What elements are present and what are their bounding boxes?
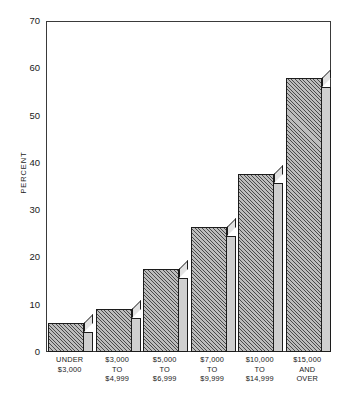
x-axis-label-line: TO	[236, 365, 284, 375]
x-axis-label-line: AND	[284, 365, 332, 375]
x-axis-tick-label: UNDER$3,000	[46, 355, 94, 374]
x-axis-label-line: $10,000	[236, 355, 284, 365]
y-axis-title: PERCENT	[19, 128, 28, 218]
x-axis-label-line: $3,000	[94, 355, 142, 365]
bar-front-face	[191, 227, 227, 352]
bar-top-face	[132, 300, 141, 318]
y-axis-tick-label: 40	[18, 158, 40, 168]
x-axis-tick-label: $15,000ANDOVER	[284, 355, 332, 384]
x-axis-label-line: $3,000	[46, 365, 94, 375]
x-axis-label-line: $7,000	[189, 355, 237, 365]
y-axis-tick-label: 70	[18, 16, 40, 26]
x-axis-label-line: TO	[94, 365, 142, 375]
bar	[143, 269, 179, 352]
bars-layer	[46, 21, 331, 352]
bar	[286, 78, 322, 352]
bar	[238, 174, 274, 352]
y-axis-tick-label: 0	[18, 347, 40, 357]
bar-front-face	[48, 323, 84, 352]
x-axis-tick-labels: UNDER$3,000$3,000TO$4,999$5,000TO$6,999$…	[46, 355, 331, 397]
bar-side-face	[132, 318, 141, 352]
bar-side-face	[179, 278, 188, 352]
y-axis-tick-label: 50	[18, 111, 40, 121]
y-axis-tick-label: 30	[18, 205, 40, 215]
bar-top-face	[274, 165, 283, 183]
bar-front-face	[286, 78, 322, 352]
bar-side-face	[84, 332, 93, 352]
x-axis-label-line: OVER	[284, 374, 332, 384]
bar-side-face	[227, 236, 236, 352]
x-axis-label-line: TO	[189, 365, 237, 375]
y-axis-tick-label: 20	[18, 252, 40, 262]
x-axis-tick-label: $5,000TO$6,999	[141, 355, 189, 384]
x-axis-label-line: $9,999	[189, 374, 237, 384]
x-axis-label-line: UNDER	[46, 355, 94, 365]
bar-side-face	[322, 87, 331, 352]
x-axis-label-line: $5,000	[141, 355, 189, 365]
bar	[96, 309, 132, 352]
bar	[191, 227, 227, 352]
x-axis-tick-label: $3,000TO$4,999	[94, 355, 142, 384]
x-axis-label-line: $6,999	[141, 374, 189, 384]
bar-top-face	[227, 218, 236, 236]
bar	[48, 323, 84, 352]
x-axis-tick-label: $7,000TO$9,999	[189, 355, 237, 384]
bar-front-face	[143, 269, 179, 352]
x-axis-label-line: $4,999	[94, 374, 142, 384]
bar-front-face	[96, 309, 132, 352]
x-axis-label-line: $14,999	[236, 374, 284, 384]
x-axis-label-line: TO	[141, 365, 189, 375]
bar-side-face	[274, 183, 283, 352]
bar-top-face	[84, 314, 93, 332]
y-axis-tick-label: 60	[18, 63, 40, 73]
y-axis-tick-label: 10	[18, 300, 40, 310]
bar-top-face	[322, 69, 331, 87]
bar-top-face	[179, 260, 188, 278]
bar-front-face	[238, 174, 274, 352]
bar-chart: PERCENT 010203040506070 UNDER$3,000$3,00…	[0, 0, 351, 397]
x-axis-tick-label: $10,000TO$14,999	[236, 355, 284, 384]
x-axis-label-line: $15,000	[284, 355, 332, 365]
